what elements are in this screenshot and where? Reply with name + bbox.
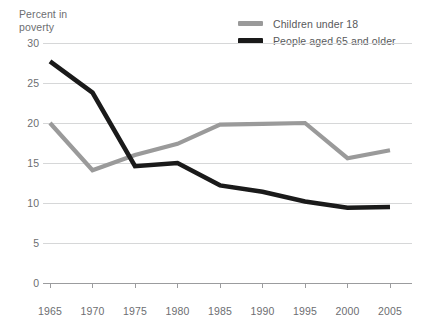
x-tick-label: 2000 (336, 305, 360, 317)
poverty-line-chart: Percent in poverty Children under 18 Peo… (0, 0, 436, 333)
x-axis-tickmarks (50, 283, 390, 288)
x-tick-label: 2005 (378, 305, 402, 317)
x-tick-label: 1970 (81, 305, 105, 317)
plot-area (0, 0, 436, 333)
x-tick-label: 1980 (166, 305, 190, 317)
x-tick-label: 1975 (123, 305, 147, 317)
x-tick-label: 1995 (293, 305, 317, 317)
x-tick-label: 1965 (38, 305, 62, 317)
x-tick-label: 1990 (251, 305, 275, 317)
gridlines (43, 43, 412, 283)
x-tick-label: 1985 (208, 305, 232, 317)
